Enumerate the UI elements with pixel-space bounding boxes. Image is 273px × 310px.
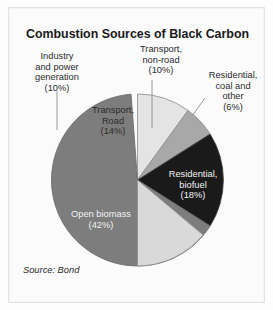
chart-plate: Combustion Sources of Black Carbon Indus… bbox=[8, 7, 265, 303]
pie-label-industry-and-power-generation: Industry and power generation (10%) bbox=[19, 51, 95, 93]
pie-label-line-1: Open biomass bbox=[51, 209, 151, 220]
pie-label-line-1: Industry bbox=[19, 51, 95, 62]
pie-label-residential-coal-and-other: Residential, coal and other (6%) bbox=[195, 70, 271, 112]
pie-label-line-1: Transport, bbox=[126, 44, 196, 55]
pie-label-percent: (42%) bbox=[51, 220, 151, 231]
pie-label-percent: (14%) bbox=[78, 126, 148, 137]
pie-label-line-2: non-road bbox=[126, 55, 196, 66]
pie-label-line-3: other bbox=[195, 91, 271, 102]
pie-label-transport-non-road: Transport, non-road (10%) bbox=[126, 44, 196, 76]
pie-label-percent: (18%) bbox=[155, 190, 231, 201]
pie-label-open-biomass: Open biomass (42%) bbox=[51, 209, 151, 230]
pie-label-line-1: Residential, bbox=[155, 169, 231, 180]
pie-label-transport-road: Transport, Road (14%) bbox=[78, 105, 148, 137]
figure-container: Combustion Sources of Black Carbon Indus… bbox=[0, 0, 273, 310]
pie-label-percent: (6%) bbox=[195, 102, 271, 113]
pie-label-line-1: Transport, bbox=[78, 105, 148, 116]
pie-label-residential-biofuel: Residential, biofuel (18%) bbox=[155, 169, 231, 201]
pie-label-percent: (10%) bbox=[126, 65, 196, 76]
pie-label-line-2: coal and bbox=[195, 81, 271, 92]
pie-label-line-2: and power bbox=[19, 62, 95, 73]
pie-label-line-2: biofuel bbox=[155, 180, 231, 191]
source-note: Source: Bond bbox=[23, 265, 79, 275]
pie-label-line-1: Residential, bbox=[195, 70, 271, 81]
pie-label-line-3: generation bbox=[19, 72, 95, 83]
pie-label-percent: (10%) bbox=[19, 83, 95, 94]
pie-label-line-2: Road bbox=[78, 116, 148, 127]
